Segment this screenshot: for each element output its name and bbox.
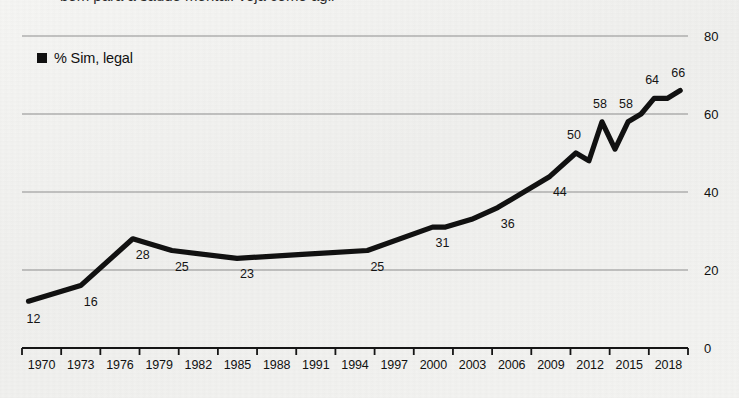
chart-legend: % Sim, legal <box>37 50 133 66</box>
x-tick-label: 1979 <box>145 358 172 372</box>
data-point-label: 58 <box>593 97 607 111</box>
x-tick-label: 2000 <box>420 358 447 372</box>
data-point-label: 25 <box>370 260 384 274</box>
x-tick-label: 2003 <box>459 358 486 372</box>
x-tick-label: 2018 <box>655 358 682 372</box>
data-point-label: 16 <box>84 295 98 309</box>
x-tick-label: 1970 <box>28 358 55 372</box>
y-tick-label: 40 <box>704 185 718 200</box>
chart-figure: bem para a saúde mental: veja como agir … <box>0 0 739 398</box>
x-tick-label: 1988 <box>263 358 290 372</box>
x-tick-label: 1976 <box>106 358 133 372</box>
y-tick-label: 80 <box>704 29 718 44</box>
data-point-label: 28 <box>136 248 150 262</box>
data-point-label: 23 <box>240 267 254 281</box>
data-point-label: 36 <box>501 217 515 231</box>
data-point-label: 31 <box>436 236 450 250</box>
x-tick-label: 2012 <box>576 358 603 372</box>
x-tick-label: 1994 <box>341 358 368 372</box>
gridlines-group <box>22 36 688 348</box>
x-tick-label: 2015 <box>616 358 643 372</box>
square-marker-icon <box>37 53 47 63</box>
y-tick-label: 0 <box>704 341 711 356</box>
y-tick-label: 60 <box>704 107 718 122</box>
x-tick-label: 1991 <box>302 358 329 372</box>
data-point-label: 58 <box>619 97 633 111</box>
y-tick-label: 20 <box>704 263 718 278</box>
data-point-label: 50 <box>567 128 581 142</box>
x-tick-label: 2006 <box>498 358 525 372</box>
data-point-label: 44 <box>553 185 567 199</box>
x-tick-label: 1982 <box>185 358 212 372</box>
x-tick-label: 1973 <box>67 358 94 372</box>
x-tick-label: 1985 <box>224 358 251 372</box>
data-point-label: 12 <box>27 312 41 326</box>
data-point-label: 66 <box>671 66 685 80</box>
data-point-label: 64 <box>645 73 659 87</box>
data-point-label: 25 <box>175 260 189 274</box>
x-tick-label: 1997 <box>380 358 407 372</box>
x-tick-label: 2009 <box>537 358 564 372</box>
legend-label: % Sim, legal <box>54 50 133 66</box>
